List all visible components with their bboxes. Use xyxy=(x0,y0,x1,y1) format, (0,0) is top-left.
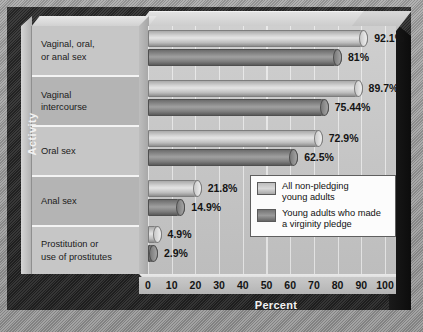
category-label-panel: Vaginal, oral, or anal sex Vaginal inter… xyxy=(31,26,149,274)
x-axis-title: Percent xyxy=(186,299,366,311)
bar-value-label: 62.5% xyxy=(304,151,334,163)
bar-value-label: 81% xyxy=(348,51,369,63)
legend-label-line: All non-pledging xyxy=(282,181,349,192)
bar xyxy=(148,30,368,47)
legend-label-line: a virginity pledge xyxy=(282,219,381,230)
legend-swatch-icon xyxy=(257,182,276,195)
bar-value-label: 89.7% xyxy=(369,82,399,94)
category-label-row: Anal sex xyxy=(32,177,149,227)
x-axis-tick-label: 20 xyxy=(190,279,202,291)
x-axis-tick-label: 90 xyxy=(355,279,367,291)
category-label-row: Prostitution or use of prostitutes xyxy=(32,227,149,274)
x-axis-tick-label: 50 xyxy=(261,279,273,291)
category-label-line: Vaginal, oral, xyxy=(41,38,95,50)
bar-end-cap xyxy=(354,80,363,97)
bar xyxy=(148,199,185,216)
bar xyxy=(148,226,162,243)
category-label-row: Vaginal intercourse xyxy=(32,77,149,127)
category-label-line: Anal sex xyxy=(41,195,77,207)
bar xyxy=(148,245,158,262)
bar-end-cap xyxy=(153,226,162,243)
chart-legend: All non-pledging young adults Young adul… xyxy=(250,175,396,237)
bar-value-label: 21.8% xyxy=(208,182,238,194)
category-label-line: or anal sex xyxy=(41,51,95,63)
legend-item: Young adults who made a virginity pledge xyxy=(257,208,390,231)
legend-item: All non-pledging young adults xyxy=(257,181,390,204)
bar xyxy=(148,130,323,147)
bar-value-label: 4.9% xyxy=(168,228,192,240)
x-axis-tick-label: 0 xyxy=(145,279,151,291)
category-label-line: Vaginal xyxy=(41,89,87,101)
category-label-line: Oral sex xyxy=(41,145,76,157)
x-axis-tick-label: 70 xyxy=(308,279,320,291)
category-label-line: use of prostitutes xyxy=(41,251,112,263)
bar-value-label: 2.9% xyxy=(164,247,188,259)
y-axis-title: Activity xyxy=(26,89,38,179)
category-label-line: Prostitution or xyxy=(41,238,112,250)
x-axis: 0102030405060708090100 xyxy=(139,277,396,294)
bar xyxy=(148,180,202,197)
bar-chart: Vaginal, oral, or anal sex Vaginal inter… xyxy=(0,0,423,332)
x-axis-tick-label: 60 xyxy=(284,279,296,291)
bar xyxy=(148,49,342,66)
bar-end-cap xyxy=(149,245,158,262)
x-axis-tick-label: 40 xyxy=(237,279,249,291)
x-axis-tick-label: 100 xyxy=(376,279,394,291)
bar-end-cap xyxy=(314,130,323,147)
category-label-line: intercourse xyxy=(41,101,87,113)
x-axis-tick-label: 30 xyxy=(213,279,225,291)
bar-value-label: 14.9% xyxy=(191,201,221,213)
x-axis-tick-label: 10 xyxy=(166,279,178,291)
bar xyxy=(148,80,363,97)
bar-value-label: 92.1% xyxy=(374,32,404,44)
legend-swatch-icon xyxy=(257,209,276,222)
legend-label-line: Young adults who made xyxy=(282,208,381,219)
bar-value-label: 72.9% xyxy=(329,132,359,144)
bar-end-cap xyxy=(320,99,329,116)
bar xyxy=(148,99,329,116)
category-label-row: Vaginal, oral, or anal sex xyxy=(32,26,149,77)
bar-end-cap xyxy=(333,49,342,66)
x-axis-tick-label: 80 xyxy=(332,279,344,291)
bar xyxy=(148,149,298,166)
bar-end-cap xyxy=(193,180,202,197)
bar-value-label: 75.44% xyxy=(335,101,371,113)
legend-label-line: young adults xyxy=(282,192,349,203)
category-label-row: Oral sex xyxy=(32,127,149,177)
